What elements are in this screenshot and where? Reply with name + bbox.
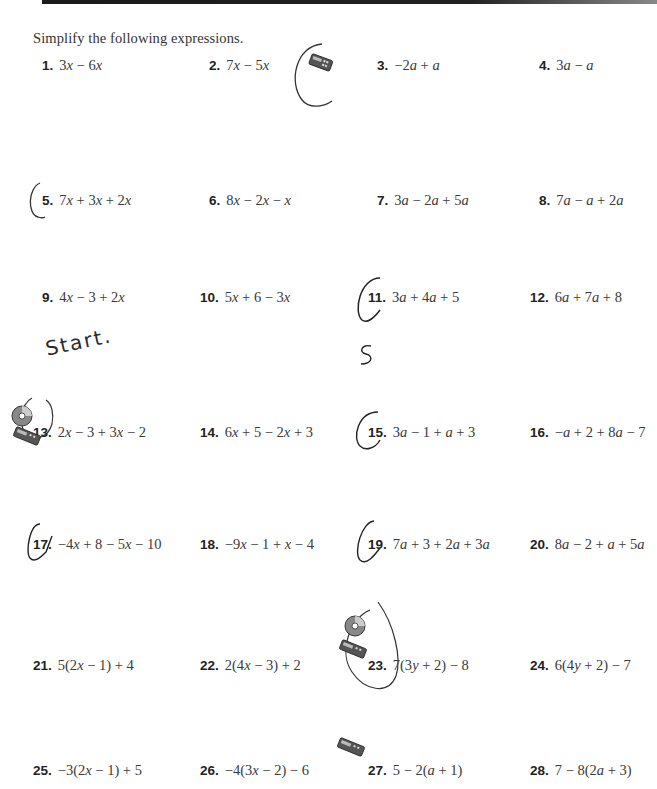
- problem-22: 22.2(4x − 3) + 2: [200, 657, 301, 673]
- problem-number: 9.: [42, 290, 53, 305]
- problem-number: 3.: [377, 58, 388, 73]
- problem-expression: 7(3y + 2) − 8: [393, 657, 469, 673]
- problem-number: 23.: [368, 658, 387, 673]
- problem-expression: 6a + 7a + 8: [555, 289, 622, 305]
- problem-expression: 7x + 3x + 2x: [59, 192, 131, 208]
- calculator-icon: [336, 736, 366, 758]
- problem-number: 27.: [368, 763, 387, 778]
- problem-18: 18.−9x − 1 + x − 4: [200, 536, 314, 552]
- problem-28: 28.7 − 8(2a + 3): [530, 762, 632, 778]
- problem-number: 24.: [530, 658, 549, 673]
- problem-5: 5.7x + 3x + 2x: [42, 192, 131, 208]
- problem-16: 16.−a + 2 + 8a − 7: [530, 424, 646, 440]
- problem-9: 9.4x − 3 + 2x: [42, 289, 125, 305]
- problem-number: 15.: [368, 425, 387, 440]
- problem-number: 28.: [530, 763, 549, 778]
- problem-expression: 4x − 3 + 2x: [59, 289, 124, 305]
- problem-expression: 7a + 3 + 2a + 3a: [393, 536, 490, 552]
- problem-19: 19.7a + 3 + 2a + 3a: [368, 536, 490, 552]
- problem-10: 10.5x + 6 − 3x: [200, 289, 290, 305]
- problem-number: 18.: [200, 537, 219, 552]
- handwritten-start-note: Start.: [43, 323, 114, 360]
- problem-number: 5.: [42, 193, 53, 208]
- problem-number: 2.: [209, 58, 220, 73]
- problem-expression: 5 − 2(a + 1): [393, 762, 463, 778]
- problem-26: 26.−4(3x − 2) − 6: [200, 762, 309, 778]
- problem-expression: −4(3x − 2) − 6: [225, 762, 309, 778]
- problem-number: 17.: [33, 537, 52, 552]
- problem-23: 23.7(3y + 2) − 8: [368, 657, 469, 673]
- problem-number: 7.: [377, 193, 388, 208]
- calculator-icon: [12, 425, 42, 447]
- problem-number: 14.: [200, 425, 219, 440]
- problem-number: 11.: [368, 290, 386, 305]
- problem-number: 19.: [368, 537, 387, 552]
- problem-expression: 5x + 6 − 3x: [225, 289, 290, 305]
- cd-icon: [343, 614, 367, 638]
- problem-3: 3.−2a + a: [377, 57, 440, 73]
- problem-number: 6.: [209, 193, 220, 208]
- problem-expression: 3a − 1 + a + 3: [393, 424, 476, 440]
- problem-11: 11.3a + 4a + 5: [368, 289, 459, 305]
- problem-expression: 7x − 5x: [226, 57, 269, 73]
- problem-number: 12.: [530, 290, 549, 305]
- problem-expression: −4x + 8 − 5x − 10: [58, 536, 162, 552]
- problem-number: 10.: [200, 290, 219, 305]
- problem-number: 8.: [539, 193, 550, 208]
- top-rule: [42, 0, 657, 4]
- problem-7: 7.3a − 2a + 5a: [377, 192, 469, 208]
- problem-2: 2.7x − 5x: [209, 57, 269, 73]
- problem-expression: −9x − 1 + x − 4: [225, 536, 314, 552]
- instruction-text: Simplify the following expressions.: [33, 30, 244, 47]
- calculator-icon: [338, 638, 368, 660]
- problem-expression: 6(4y + 2) − 7: [555, 657, 631, 673]
- problem-expression: 8a − 2 + a + 5a: [555, 536, 645, 552]
- problem-expression: 3a + 4a + 5: [392, 289, 459, 305]
- problem-12: 12.6a + 7a + 8: [530, 289, 622, 305]
- problem-number: 16.: [530, 425, 549, 440]
- problem-6: 6.8x − 2x − x: [209, 192, 291, 208]
- problem-14: 14.6x + 5 − 2x + 3: [200, 424, 313, 440]
- problem-number: 1.: [42, 58, 53, 73]
- problem-13: 13.2x − 3 + 3x − 2: [33, 424, 146, 440]
- problem-expression: 2(4x − 3) + 2: [225, 657, 301, 673]
- problem-4: 4.3a − a: [539, 57, 593, 73]
- problem-expression: 3a − 2a + 5a: [394, 192, 468, 208]
- problem-number: 26.: [200, 763, 219, 778]
- problem-21: 21.5(2x − 1) + 4: [33, 657, 134, 673]
- problem-25: 25.−3(2x − 1) + 5: [33, 762, 142, 778]
- problem-expression: 6x + 5 − 2x + 3: [225, 424, 313, 440]
- problem-number: 22.: [200, 658, 219, 673]
- problem-8: 8.7a − a + 2a: [539, 192, 623, 208]
- problem-20: 20.8a − 2 + a + 5a: [530, 536, 645, 552]
- problem-expression: −2a + a: [394, 57, 439, 73]
- problem-expression: 3x − 6x: [59, 57, 102, 73]
- problem-expression: −a + 2 + 8a − 7: [555, 424, 646, 440]
- answer-mark-11: [361, 346, 371, 364]
- problem-24: 24.6(4y + 2) − 7: [530, 657, 631, 673]
- problem-expression: 2x − 3 + 3x − 2: [58, 424, 146, 440]
- problem-expression: 8x − 2x − x: [226, 192, 291, 208]
- problem-1: 1.3x − 6x: [42, 57, 102, 73]
- problem-expression: 7 − 8(2a + 3): [555, 762, 632, 778]
- problem-number: 4.: [539, 58, 550, 73]
- problem-expression: −3(2x − 1) + 5: [58, 762, 142, 778]
- problem-27: 27.5 − 2(a + 1): [368, 762, 462, 778]
- problem-15: 15.3a − 1 + a + 3: [368, 424, 475, 440]
- problem-expression: 7a − a + 2a: [556, 192, 623, 208]
- problem-expression: 3a − a: [556, 57, 593, 73]
- problem-17: 17.−4x + 8 − 5x − 10: [33, 536, 161, 552]
- calculator-icon: [308, 52, 334, 72]
- problem-number: 25.: [33, 763, 52, 778]
- problem-expression: 5(2x − 1) + 4: [58, 657, 134, 673]
- problem-number: 21.: [33, 658, 52, 673]
- problem-number: 20.: [530, 537, 549, 552]
